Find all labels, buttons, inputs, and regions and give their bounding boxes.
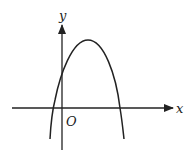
origin-label: O: [66, 114, 77, 129]
y-axis-label: y: [58, 8, 67, 23]
parabola-figure: y x O: [0, 0, 189, 163]
parabola-curve: [50, 40, 124, 139]
x-axis-label: x: [176, 101, 184, 116]
graph-canvas: y x O: [0, 0, 189, 163]
